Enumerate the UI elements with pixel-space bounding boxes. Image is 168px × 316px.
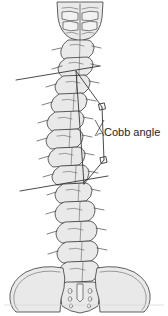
cobb-angle-figure: Cobb angle — [0, 0, 168, 316]
spine-illustration — [0, 0, 168, 316]
lower-thoracic-spine — [43, 165, 100, 204]
cobb-angle-arc — [97, 133, 102, 136]
occiput-region — [57, 2, 103, 41]
upper-thoracic-spine — [42, 75, 99, 114]
mid-thoracic-spine — [37, 111, 94, 168]
sacrum — [60, 282, 100, 313]
cobb-angle-label: Cobb angle — [104, 126, 160, 138]
